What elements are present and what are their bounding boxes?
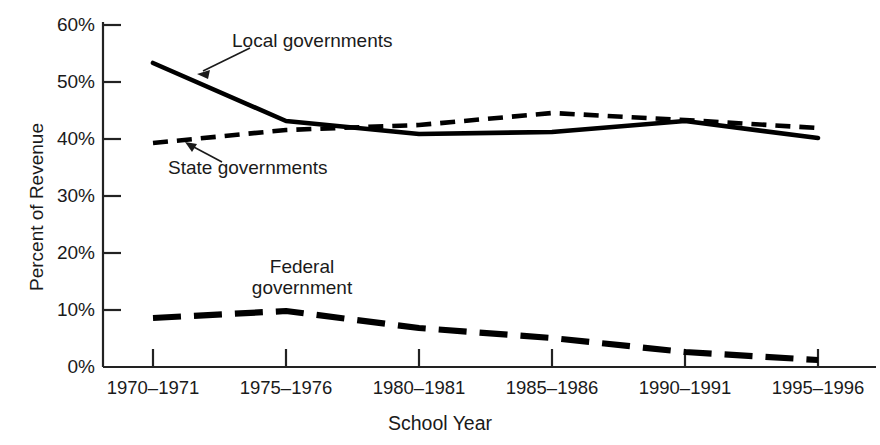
y-tick-label-10: 10% [10, 299, 95, 321]
x-tick-label-1975-1976: 1975–1976 [240, 377, 333, 399]
y-tick-label-60: 60% [10, 14, 95, 36]
series-label-local-governments: Local governments [232, 30, 393, 52]
leader-line-local-governments [197, 48, 250, 79]
series-line-federal-government [153, 311, 818, 360]
series-label-federal-line2: government [222, 277, 382, 298]
y-tick-label-30: 30% [10, 185, 95, 207]
y-tick-label-50: 50% [10, 71, 95, 93]
y-tick-marks [103, 25, 121, 310]
series-label-federal-line1: Federal [222, 256, 382, 277]
series-label-state-governments: State governments [168, 157, 327, 179]
y-axis-title: Percent of Revenue [26, 107, 48, 307]
x-axis-title: School Year [0, 412, 880, 435]
line-chart: 60% 50% 40% 30% 20% 10% 0% 1970–1971 197… [0, 0, 880, 445]
series-line-local-governments [153, 63, 818, 138]
y-tick-label-20: 20% [10, 242, 95, 264]
series-line-state-governments [153, 113, 818, 143]
y-tick-label-40: 40% [10, 128, 95, 150]
x-tick-label-1995-1996: 1995–1996 [772, 377, 865, 399]
x-tick-label-1990-1991: 1990–1991 [639, 377, 732, 399]
x-tick-label-1970-1971: 1970–1971 [107, 377, 200, 399]
x-tick-label-1980-1981: 1980–1981 [373, 377, 466, 399]
x-tick-label-1985-1986: 1985–1986 [506, 377, 599, 399]
series-label-federal-government: Federal government [222, 256, 382, 299]
x-tick-marks [153, 349, 818, 367]
y-tick-label-0: 0% [10, 356, 95, 378]
